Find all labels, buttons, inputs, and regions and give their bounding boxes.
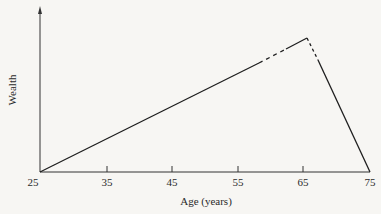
x-tick-label: 65 [298, 176, 310, 188]
x-tick-label: 75 [365, 176, 377, 188]
x-tick-label: 45 [167, 176, 179, 188]
chart-canvas: 25 35 45 55 65 75 Age (years) Wealth [0, 0, 381, 214]
wealth-line-dashed [259, 49, 286, 63]
x-tick-label: 55 [233, 176, 245, 188]
x-ticks [107, 166, 303, 172]
x-axis-label: Age (years) [180, 195, 232, 208]
y-axis-label: Wealth [6, 74, 18, 105]
wealth-line-rise [40, 63, 259, 172]
wealth-line-to-peak [286, 38, 307, 49]
wealth-line-fall-dashed [307, 38, 318, 60]
x-tick-label: 25 [28, 176, 40, 188]
wealth-line-fall [318, 60, 370, 172]
x-tick-label: 35 [102, 176, 114, 188]
y-axis-arrow-icon [38, 6, 42, 14]
